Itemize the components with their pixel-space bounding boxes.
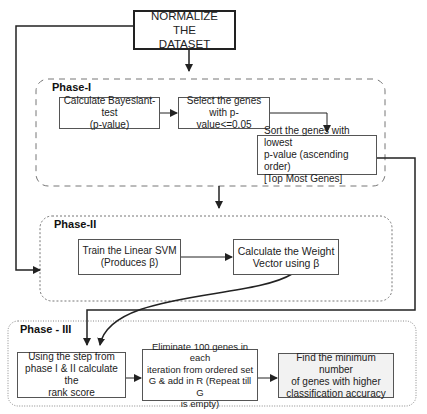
normalize-line-2: DATASET (159, 37, 210, 51)
box-text: iteration from ordered set (147, 364, 253, 376)
sort-genes-box: Sort the genes with lowest p-value (asce… (257, 135, 377, 175)
box-text: (Produces β) (101, 257, 158, 269)
box-text: Using the step from (28, 351, 115, 363)
box-text: Calculate the Weight (238, 245, 335, 257)
normalize-line-1: NORMALIZE THE (138, 9, 231, 37)
select-genes-box: Select the genes with p-value<=0.05 (178, 97, 270, 129)
eliminate-genes-box: Eliminate 100 genes in each iteration fr… (142, 349, 258, 401)
box-text: G & add in R (Repeat till G (146, 375, 254, 398)
bayesian-test-box: Calculate Bayesiant-test (p-value) (59, 97, 160, 129)
box-text: Find the minimum number (282, 352, 390, 376)
phase-1-label: Phase-I (52, 81, 91, 93)
phase-3-label: Phase - III (20, 323, 71, 335)
box-text: of genes with higher (291, 376, 381, 388)
box-text: classification accuracy (286, 388, 385, 400)
rank-score-box: Using the step from phase I & II calcula… (17, 352, 126, 398)
box-text: phase I & II calculate the (21, 363, 122, 387)
box-text: Train the Linear SVM (82, 245, 176, 257)
box-text: p-value (ascending order) (264, 149, 373, 173)
box-text: Vector using β (253, 257, 320, 269)
box-text: Eliminate 100 genes in each (146, 341, 254, 364)
box-text: (p-value) (90, 119, 129, 131)
box-text: Calculate Bayesiant-test (63, 95, 156, 119)
box-text: Select the genes (187, 95, 262, 107)
normalize-dataset-box: NORMALIZE THE DATASET (133, 10, 236, 50)
weight-vector-box: Calculate the Weight Vector using β (233, 239, 339, 275)
find-minimum-genes-box: Find the minimum number of genes with hi… (278, 353, 394, 398)
box-text: with p-value<=0.05 (182, 107, 266, 131)
train-svm-box: Train the Linear SVM (Produces β) (78, 239, 181, 275)
box-text: Sort the genes with lowest (264, 125, 373, 149)
box-text: rank score (48, 387, 95, 399)
box-text: [Top Most Genes] (264, 173, 342, 185)
box-text: is empty) (181, 398, 220, 410)
phase-2-label: Phase-II (54, 218, 96, 230)
